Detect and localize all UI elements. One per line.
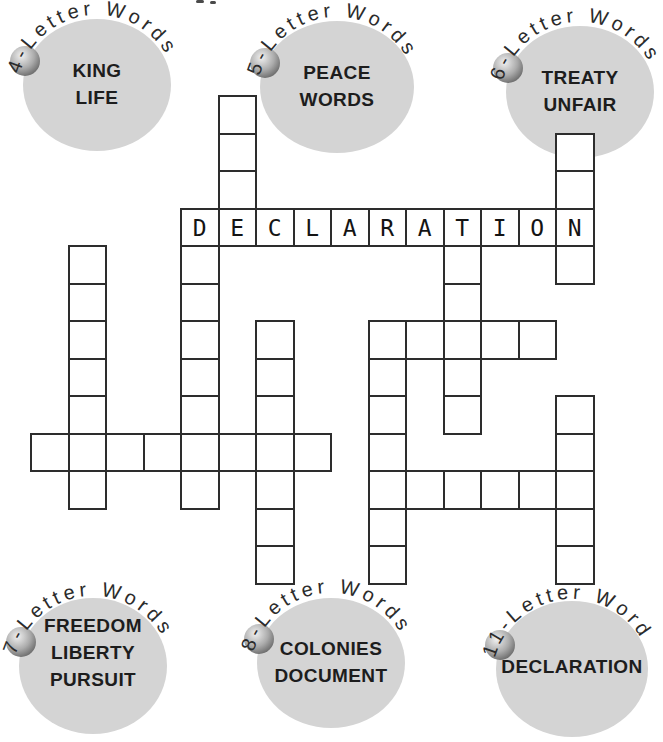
grid-cell[interactable] xyxy=(143,433,183,473)
grid-cell[interactable] xyxy=(218,433,258,473)
grid-cell[interactable] xyxy=(405,320,445,360)
grid-cell[interactable] xyxy=(255,470,295,510)
grid-cell-letter[interactable]: A xyxy=(330,208,370,248)
grid-cell[interactable] xyxy=(518,470,558,510)
grid-cell[interactable] xyxy=(68,433,108,473)
grid-cell[interactable] xyxy=(293,433,333,473)
grid-cell[interactable] xyxy=(218,95,258,135)
grid-cell[interactable] xyxy=(368,433,408,473)
grid-cell-letter[interactable]: N xyxy=(555,208,595,248)
grid-cell[interactable] xyxy=(368,508,408,548)
grid-cell[interactable] xyxy=(555,433,595,473)
grid-cell[interactable] xyxy=(443,358,483,398)
grid-cell[interactable] xyxy=(443,320,483,360)
grid-cell[interactable] xyxy=(443,245,483,285)
word-group-11-letter: 11-Letter Word DECLARATION xyxy=(472,561,663,742)
grid-cell-letter[interactable]: E xyxy=(218,208,258,248)
grid-cell-letter[interactable]: R xyxy=(368,208,408,248)
grid-cell[interactable] xyxy=(180,320,220,360)
grid-cell[interactable] xyxy=(368,470,408,510)
grid-cell[interactable] xyxy=(405,470,445,510)
grid-cell[interactable] xyxy=(255,358,295,398)
grid-cell[interactable] xyxy=(480,320,520,360)
grid-cell-letter[interactable]: O xyxy=(518,208,558,248)
grid-cell[interactable] xyxy=(218,133,258,173)
crossword-grid: DECLARATION xyxy=(30,95,595,585)
grid-cell[interactable] xyxy=(443,470,483,510)
grid-cell[interactable] xyxy=(180,470,220,510)
cropped-text-remnant xyxy=(210,1,216,4)
grid-cell-letter[interactable]: D xyxy=(180,208,220,248)
grid-cell[interactable] xyxy=(218,170,258,210)
grid-cell[interactable] xyxy=(180,395,220,435)
grid-cell[interactable] xyxy=(555,245,595,285)
grid-cell[interactable] xyxy=(105,433,145,473)
grid-cell-letter[interactable]: I xyxy=(480,208,520,248)
grid-cell[interactable] xyxy=(68,283,108,323)
grid-cell[interactable] xyxy=(480,470,520,510)
grid-cell[interactable] xyxy=(180,245,220,285)
grid-cell[interactable] xyxy=(443,395,483,435)
grid-cell[interactable] xyxy=(555,170,595,210)
grid-cell[interactable] xyxy=(68,358,108,398)
grid-cell[interactable] xyxy=(555,395,595,435)
grid-cell[interactable] xyxy=(368,358,408,398)
group-word-list: DECLARATION xyxy=(472,653,663,680)
grid-cell[interactable] xyxy=(368,395,408,435)
grid-cell[interactable] xyxy=(443,283,483,323)
grid-cell[interactable] xyxy=(368,320,408,360)
group-word-list: COLONIES DOCUMENT xyxy=(231,635,431,689)
grid-cell[interactable] xyxy=(255,433,295,473)
cropped-text-remnant xyxy=(196,0,204,3)
grid-cell[interactable] xyxy=(555,133,595,173)
grid-cell[interactable] xyxy=(255,545,295,585)
group-word-list: FREEDOM LIBERTY PURSUIT xyxy=(0,612,193,693)
grid-cell[interactable] xyxy=(180,358,220,398)
grid-cell-letter[interactable]: C xyxy=(255,208,295,248)
grid-cell[interactable] xyxy=(555,508,595,548)
grid-cell[interactable] xyxy=(180,283,220,323)
word-group-7-letter: 7-Letter Words FREEDOM LIBERTY PURSUIT xyxy=(0,558,193,742)
grid-cell[interactable] xyxy=(180,433,220,473)
grid-cell-letter[interactable]: A xyxy=(405,208,445,248)
grid-cell[interactable] xyxy=(555,470,595,510)
grid-cell[interactable] xyxy=(255,508,295,548)
grid-cell[interactable] xyxy=(518,320,558,360)
grid-cell[interactable] xyxy=(68,320,108,360)
grid-cell[interactable] xyxy=(68,245,108,285)
grid-cell[interactable] xyxy=(68,470,108,510)
grid-cell-letter[interactable]: T xyxy=(443,208,483,248)
grid-cell[interactable] xyxy=(68,395,108,435)
grid-cell[interactable] xyxy=(255,395,295,435)
grid-cell[interactable] xyxy=(368,545,408,585)
grid-cell[interactable] xyxy=(555,545,595,585)
grid-cell[interactable] xyxy=(255,320,295,360)
grid-cell[interactable] xyxy=(30,433,70,473)
worksheet-page: { "groups": [ { "id": "4", "label": "4-L… xyxy=(0,0,663,742)
grid-cell-letter[interactable]: L xyxy=(293,208,333,248)
